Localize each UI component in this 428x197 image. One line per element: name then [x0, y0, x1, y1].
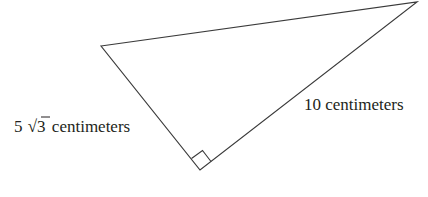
left-leg-unit: centimeters: [52, 117, 130, 136]
left-leg-coefficient: 5: [14, 117, 23, 136]
right-angle-marker: [192, 151, 212, 162]
right-leg-label: 10 centimeters: [304, 95, 404, 114]
left-leg-label: 5 √3 centimeters: [14, 117, 130, 136]
triangle: [101, 2, 417, 170]
triangle-diagram: 5 √3 centimeters 10 centimeters: [0, 0, 428, 197]
left-leg-radicand: 3: [37, 117, 46, 136]
